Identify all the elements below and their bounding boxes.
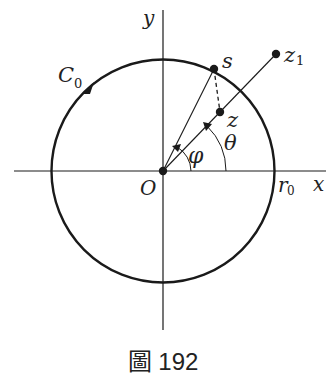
- circle-diagram: y x O C 0 r 0 s z z 1 φ θ: [0, 0, 326, 381]
- figure-caption: 圖 192: [0, 342, 326, 377]
- point-origin: [159, 167, 167, 175]
- y-axis-label: y: [142, 6, 155, 30]
- point-z1-label-sub: 1: [296, 53, 304, 68]
- radius-label-r0-sub: 0: [287, 184, 295, 198]
- point-z1-label: z: [283, 43, 296, 67]
- curve-label-c0: C: [58, 63, 74, 87]
- point-s-label: s: [222, 49, 233, 73]
- angle-phi-label: φ: [188, 143, 204, 168]
- point-z-label: z: [226, 108, 239, 132]
- point-z1: [272, 50, 280, 58]
- point-s: [210, 65, 218, 73]
- origin-label: O: [140, 176, 156, 200]
- angle-theta-label: θ: [224, 131, 237, 155]
- curve-label-c0-sub: 0: [74, 76, 82, 91]
- point-z: [216, 108, 224, 116]
- x-axis-label: x: [313, 172, 324, 196]
